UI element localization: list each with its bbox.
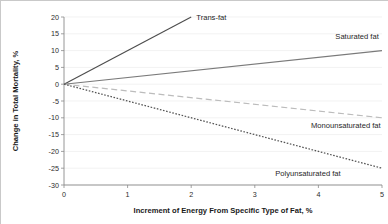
y-tick-label: -20 (49, 147, 59, 156)
y-tick-label: -25 (49, 164, 59, 173)
x-tick-label: 1 (126, 190, 130, 199)
series-label-3: Polyunsaturated fat (275, 169, 341, 178)
x-tick-label: 0 (62, 190, 66, 199)
y-tick-label: -15 (49, 130, 59, 139)
x-tick-label: 5 (380, 190, 384, 199)
y-tick-label: 20 (51, 13, 59, 22)
y-tick-label: -30 (49, 181, 59, 190)
series-label-2: Monounsaturated fat (311, 121, 382, 130)
y-tick-label: -5 (53, 97, 59, 106)
x-tick-label: 4 (316, 190, 320, 199)
x-axis-title: Increment of Energy From Specific Type o… (134, 206, 313, 215)
line-chart: 20151050-5-10-15-20-25-30 012345 Trans-f… (1, 1, 388, 224)
y-tick-label: 0 (55, 80, 59, 89)
x-tick-label: 3 (253, 190, 257, 199)
x-tick-label: 2 (189, 190, 193, 199)
series-label-1: Saturated fat (335, 32, 379, 41)
y-axis-title: Change in Total Mortality, % (11, 50, 20, 151)
y-tick-label: -10 (49, 113, 59, 122)
series-label-0: Trans-fat (196, 13, 227, 22)
y-tick-label: 10 (51, 46, 59, 55)
y-tick-label: 5 (55, 63, 59, 72)
chart-figure: 20151050-5-10-15-20-25-30 012345 Trans-f… (0, 0, 388, 224)
y-tick-label: 15 (51, 29, 59, 38)
